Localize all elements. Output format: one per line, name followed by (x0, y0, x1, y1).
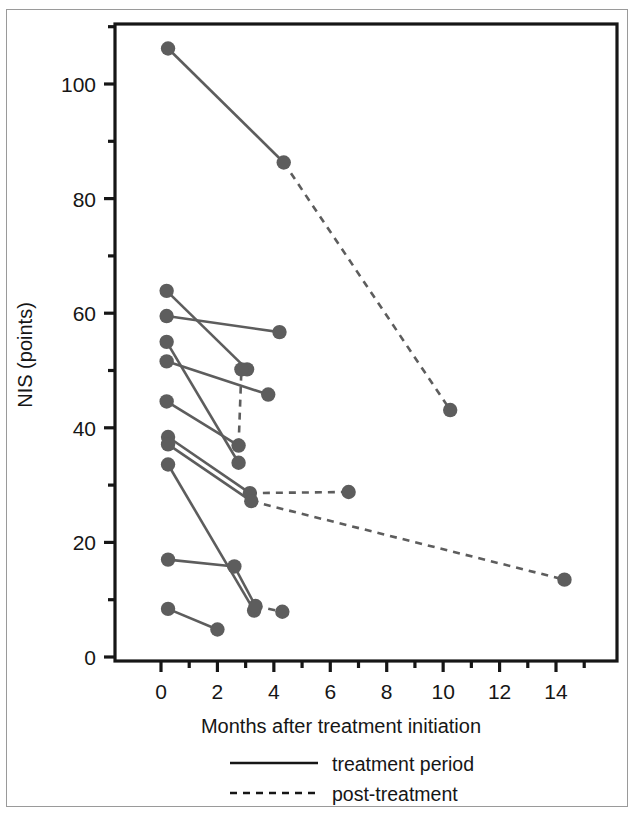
data-point-marker (244, 494, 258, 508)
scatter-line-chart: 02040608010002468101214 Months after tre… (0, 0, 636, 815)
data-point-marker (272, 325, 286, 339)
y-axis-title: NIS (points) (14, 302, 36, 408)
chart-legend: treatment periodpost-treatment (230, 753, 474, 805)
x-tick-label: 14 (544, 680, 568, 703)
post-treatment-segment (239, 369, 242, 445)
x-tick-label: 6 (324, 680, 336, 703)
data-point-marker (231, 456, 245, 470)
treatment-period-segment (168, 444, 251, 501)
treatment-period-segment (168, 48, 284, 162)
plot-area-border (115, 24, 617, 661)
data-point-marker (161, 602, 175, 616)
data-point-marker (341, 485, 355, 499)
x-axis-title: Months after treatment initiation (201, 715, 481, 737)
treatment-period-segment (167, 291, 247, 370)
y-tick-label: 0 (84, 646, 96, 669)
data-point-marker (161, 552, 175, 566)
x-tick-label: 8 (381, 680, 393, 703)
series-patient-9 (161, 457, 261, 618)
data-point-marker (159, 394, 173, 408)
post-treatment-segment (284, 163, 450, 411)
data-point-marker (261, 387, 275, 401)
treatment-period-segment (167, 401, 239, 445)
series-patient-1 (161, 41, 458, 417)
x-tick-label: 0 (155, 680, 167, 703)
data-point-marker (234, 362, 248, 376)
x-tick-label: 2 (212, 680, 224, 703)
data-point-marker (227, 559, 241, 573)
data-point-marker (557, 572, 571, 586)
data-point-marker (210, 622, 224, 636)
axis-ticks (104, 27, 584, 672)
treatment-period-segment (167, 316, 280, 332)
x-tick-label: 12 (488, 680, 511, 703)
x-tick-label: 10 (431, 680, 454, 703)
data-point-marker (231, 438, 245, 452)
y-tick-label: 80 (73, 188, 96, 211)
data-point-marker (159, 309, 173, 323)
series-patient-7 (161, 430, 356, 501)
figure-panel: 02040608010002468101214 Months after tre… (0, 0, 636, 815)
data-point-marker (443, 403, 457, 417)
x-tick-label: 4 (268, 680, 280, 703)
data-point-marker (161, 437, 175, 451)
legend-label: treatment period (332, 753, 474, 775)
y-tick-label: 100 (61, 73, 96, 96)
legend-label: post-treatment (332, 783, 458, 805)
post-treatment-segment (250, 492, 349, 493)
data-series-group (159, 41, 571, 636)
post-treatment-segment (251, 501, 564, 580)
data-point-marker (161, 457, 175, 471)
series-patient-11 (161, 602, 225, 637)
data-point-marker (248, 599, 262, 613)
data-point-marker (161, 41, 175, 55)
y-tick-label: 60 (73, 302, 96, 325)
y-tick-label: 20 (73, 531, 96, 554)
axis-tick-labels: 02040608010002468101214 (61, 73, 568, 703)
treatment-period-segment (168, 609, 217, 630)
series-patient-3 (159, 309, 286, 339)
data-point-marker (275, 605, 289, 619)
data-point-marker (159, 354, 173, 368)
plot-frame (115, 24, 617, 661)
data-point-marker (159, 335, 173, 349)
y-tick-label: 40 (73, 417, 96, 440)
data-point-marker (277, 155, 291, 169)
data-point-marker (159, 284, 173, 298)
